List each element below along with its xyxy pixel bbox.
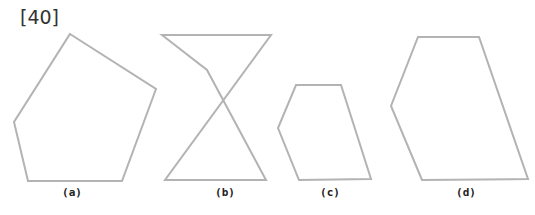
figure-c-pentagon [278, 85, 371, 180]
figure-d-pentagon [391, 37, 528, 180]
figure-a-pentagon [14, 34, 156, 181]
figure-b-crossed-polygon [162, 35, 271, 180]
figure-d-label: (d) [456, 186, 476, 199]
figure-a-label: (a) [62, 186, 82, 199]
figure-c-label: (c) [320, 186, 340, 199]
figures-canvas [0, 0, 535, 215]
figure-b-label: (b) [215, 186, 235, 199]
